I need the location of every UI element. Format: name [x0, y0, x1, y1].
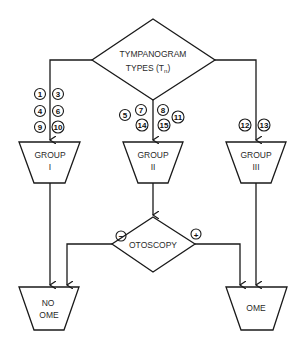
- no-ome-box: [19, 287, 79, 330]
- ome-label: OME: [246, 303, 266, 313]
- otoscopy-label: OTOSCOPY: [129, 240, 177, 250]
- tympanogram-decision-diamond: [92, 19, 215, 100]
- negative-sign: −: [119, 232, 124, 241]
- type-number: 6: [56, 107, 61, 116]
- connector-negative-no-ome: [67, 244, 112, 285]
- no-ome-label-line1: NO: [42, 298, 55, 308]
- type-number: 8: [161, 106, 166, 115]
- type-number: 3: [56, 90, 61, 99]
- positive-sign: +: [194, 231, 199, 240]
- tympanogram-label: TYMPANOGRAM: [120, 49, 187, 59]
- connector-positive-ome: [195, 244, 240, 285]
- flowchart: TYMPANOGRAM TYPES (Tn) 1 3 4 6 9 10 5 7 …: [0, 0, 307, 348]
- group1-numeral: I: [49, 162, 51, 172]
- group3-numeral: III: [252, 162, 259, 172]
- group1-label: GROUP: [34, 150, 66, 160]
- type-number: 10: [54, 123, 63, 132]
- type-number: 12: [241, 121, 250, 130]
- group2-numeral: II: [151, 162, 156, 172]
- group2-label: GROUP: [137, 150, 169, 160]
- type-number: 13: [260, 121, 269, 130]
- group3-label: GROUP: [240, 150, 272, 160]
- type-number: 9: [38, 123, 43, 132]
- no-ome-label-line2: OME: [39, 310, 59, 320]
- type-number: 5: [123, 111, 128, 120]
- type-number: 11: [174, 113, 183, 122]
- type-number: 7: [139, 106, 144, 115]
- type-number: 1: [38, 90, 43, 99]
- type-number: 4: [38, 107, 43, 116]
- types-label: TYPES (Tn): [126, 63, 171, 74]
- type-number: 14: [138, 121, 147, 130]
- type-number: 15: [160, 121, 169, 130]
